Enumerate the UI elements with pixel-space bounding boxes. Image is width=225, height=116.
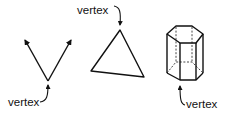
triangle-vertex-pointer-arrow xyxy=(114,6,120,25)
prism-hidden-bottom-edges xyxy=(167,62,203,73)
triangle-vertex-label: vertex xyxy=(77,4,109,16)
prism-vertex-label: vertex xyxy=(186,98,218,110)
triangle-figure: vertex xyxy=(77,4,144,77)
vertex-diagram: vertex vertex vertex xyxy=(0,0,225,116)
triangle-shape xyxy=(91,30,144,77)
prism-vertex-pointer-arrow xyxy=(180,86,185,105)
angle-ray-right xyxy=(48,40,71,81)
angle-vertex-pointer-arrow xyxy=(40,85,48,102)
hexagonal-prism-figure: vertex xyxy=(167,26,218,110)
prism-top-face xyxy=(167,26,203,43)
angle-vertex-label: vertex xyxy=(8,96,40,108)
angle-ray-left xyxy=(25,40,48,81)
angle-figure: vertex xyxy=(8,40,71,108)
prism-bottom-edges xyxy=(167,73,203,80)
